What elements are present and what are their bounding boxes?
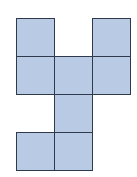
net-square (16, 18, 55, 57)
net-square (92, 56, 131, 95)
net-square (16, 132, 55, 171)
square-net-diagram (0, 0, 137, 177)
net-square (16, 56, 55, 95)
net-square (92, 18, 131, 57)
net-square (54, 94, 93, 133)
net-square (54, 132, 93, 171)
net-square (54, 56, 93, 95)
